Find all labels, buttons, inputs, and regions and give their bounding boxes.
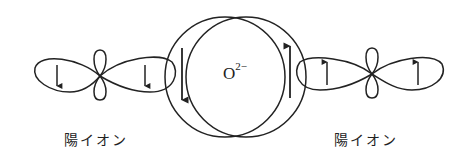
superexchange-diagram: O2− 陽イオン 陽イオン <box>0 0 472 155</box>
right-cation-label: 陽イオン <box>334 129 398 149</box>
anion-charge: 2− <box>235 60 247 72</box>
right-cation-orbital <box>297 48 444 98</box>
anion-label: O2− <box>223 62 247 84</box>
left-cation-orbital <box>35 50 176 100</box>
anion-base: O <box>223 64 235 83</box>
left-cation-label: 陽イオン <box>64 129 128 149</box>
